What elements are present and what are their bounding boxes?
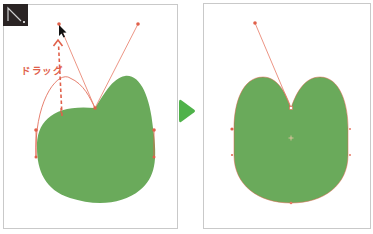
after-anchor-left-top[interactable] [230, 127, 233, 130]
before-anchor-left-top[interactable] [34, 128, 38, 132]
tool-glyph-icon [3, 4, 28, 26]
before-handle-point-right[interactable] [136, 22, 140, 26]
illustration-canvas [0, 0, 373, 234]
drag-arrow-shaft [59, 44, 63, 116]
drag-label: ドラッグ [21, 63, 63, 77]
after-anchor-right-top[interactable] [349, 128, 351, 130]
drag-arrow-head [54, 40, 63, 46]
before-anchor-right-bottom[interactable] [153, 156, 156, 159]
after-anchor-center[interactable] [290, 107, 293, 110]
mouse-cursor-icon [59, 25, 67, 38]
before-anchor-left-bottom[interactable] [35, 156, 38, 159]
direct-selection-tool-icon[interactable] [3, 4, 28, 26]
after-anchor-right-bottom[interactable] [349, 154, 351, 156]
after-anchor-bottom[interactable] [290, 202, 293, 205]
play-arrow-icon [179, 100, 195, 123]
before-anchor-right-top[interactable] [152, 128, 156, 132]
before-shape [37, 76, 155, 203]
before-anchor-center[interactable] [94, 107, 97, 110]
after-anchor-left-bottom[interactable] [231, 154, 233, 156]
after-handle-point[interactable] [253, 21, 257, 25]
